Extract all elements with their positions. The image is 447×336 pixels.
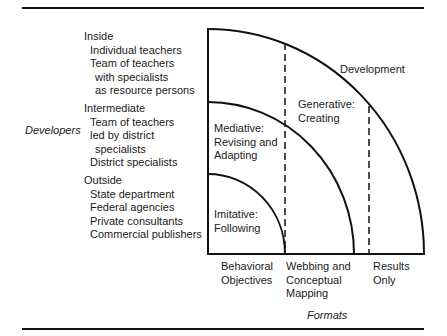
format-label-line: Results (373, 260, 410, 274)
format-label-line: Mapping (286, 287, 351, 301)
group-heading: Inside (84, 30, 195, 44)
region-label-line: Generative: (298, 98, 355, 112)
format-label-line: Conceptual (286, 274, 351, 288)
region-label-line: Mediative: (214, 122, 278, 136)
group-item: Individual teachers (84, 44, 195, 58)
group-item: Private consultants (84, 215, 202, 229)
x-axis-title: Formats (307, 309, 347, 323)
format-label-webbing: Webbing and Conceptual Mapping (286, 260, 351, 301)
group-item: led by district (84, 129, 177, 143)
region-label-line: Imitative: (214, 208, 260, 222)
region-label-line: Development (340, 63, 405, 77)
group-item: with specialists (84, 71, 195, 85)
region-label-line: Creating (298, 112, 355, 126)
group-item: as resource persons (84, 84, 195, 98)
region-label-line: Revising and (214, 136, 278, 150)
format-label-line: Webbing and (286, 260, 351, 274)
region-label-mediative: Mediative: Revising and Adapting (214, 122, 278, 163)
group-item: Federal agencies (84, 201, 202, 215)
format-label-line: Only (373, 274, 410, 288)
group-item: State department (84, 188, 202, 202)
group-item: specialists (84, 143, 177, 157)
region-label-development: Development (340, 63, 405, 77)
group-heading: Intermediate (84, 102, 177, 116)
developer-group-inside: Inside Individual teachers Team of teach… (84, 30, 195, 98)
format-label-line: Behavioral (221, 260, 273, 274)
format-label-behavioral: Behavioral Objectives (221, 260, 273, 287)
group-item: Team of teachers (84, 57, 195, 71)
group-item: District specialists (84, 156, 177, 170)
region-label-line: Following (214, 222, 260, 236)
developer-group-intermediate: Intermediate Team of teachers led by dis… (84, 102, 177, 170)
developer-group-outside: Outside State department Federal agencie… (84, 174, 202, 242)
group-heading: Outside (84, 174, 202, 188)
region-label-line: Adapting (214, 149, 278, 163)
group-item: Team of teachers (84, 116, 177, 130)
format-label-line: Objectives (221, 274, 273, 288)
group-item: Commercial publishers (84, 228, 202, 242)
y-axis-title: Developers (25, 124, 81, 138)
region-label-generative: Generative: Creating (298, 98, 355, 125)
region-label-imitative: Imitative: Following (214, 208, 260, 235)
format-label-results: Results Only (373, 260, 410, 287)
